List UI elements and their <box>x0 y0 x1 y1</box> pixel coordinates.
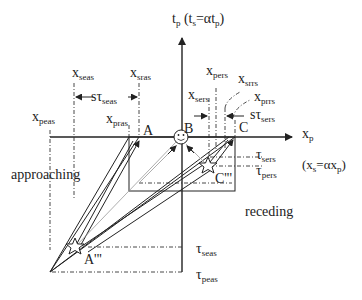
label-tau-seas: τseas <box>196 242 217 258</box>
label-x-pers: xpers <box>206 64 228 80</box>
label-x-peas: xpeas <box>32 110 55 126</box>
label-x-seas: xseas <box>72 66 94 82</box>
region-receding: receding <box>245 205 293 219</box>
point-b: B <box>184 122 193 136</box>
vertical-axis-label: tp (ts=αtp) <box>172 12 224 28</box>
label-tau-pers: τpers <box>256 164 277 180</box>
label-x-pras: xpras <box>106 112 128 128</box>
point-a-triple-prime: A''' <box>84 253 102 267</box>
point-c: C <box>239 121 248 135</box>
spacetime-diagram <box>0 0 362 300</box>
label-s-tau-sers: sτsers <box>250 108 275 124</box>
point-c-triple-prime: C''' <box>215 172 232 186</box>
label-tau-sers: τsers <box>256 148 276 164</box>
region-approaching: approaching <box>11 168 80 182</box>
label-tau-peas: τpeas <box>196 268 218 284</box>
horizontal-axis-label: xp <box>302 127 314 143</box>
label-x-prrs: xprrs <box>254 90 275 106</box>
label-s-tau-seas: sτseas <box>91 90 117 106</box>
point-a: A <box>143 124 153 138</box>
horizontal-axis-relation: (xs=αxp) <box>302 158 346 174</box>
label-x-sers: xsers <box>188 88 209 104</box>
label-x-sras: xsras <box>130 66 151 82</box>
label-x-srrs: xsrrs <box>238 72 258 88</box>
